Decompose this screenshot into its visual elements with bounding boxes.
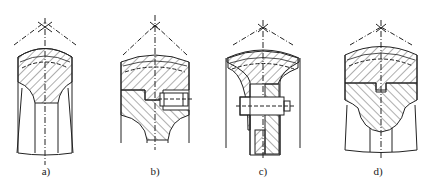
panel-d-drawing [345,20,417,160]
panel-a-drawing [14,18,76,165]
panel-c-label: c) [259,165,268,177]
panel-b-drawing [121,15,194,150]
panel-a-label: a) [42,165,51,177]
panel-c-drawing [226,20,300,160]
panel-d-label: d) [373,165,382,177]
panel-b-label: b) [150,165,159,177]
figure-canvas [0,0,435,191]
